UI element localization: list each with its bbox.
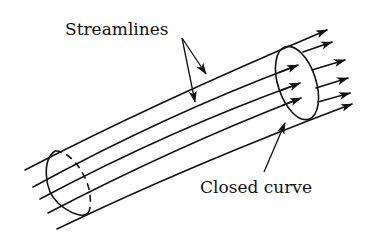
streamtube-diagram: Streamlines Closed curve [0,0,369,241]
streamline-2 [33,66,296,187]
closed-curve-pointer [264,123,285,172]
streamline-1 [25,30,327,170]
streamline-3-arrowhead-inner [282,83,300,90]
streamlines-group [25,30,352,229]
streamline-5 [57,104,352,229]
closed-curve-label: Closed curve [200,177,312,197]
streamline-4-exit-arrow [318,93,350,102]
streamline-2-arrowhead-inner [280,65,298,72]
closed-curve-right [267,41,327,125]
streamline-3-exit-arrow [316,78,348,88]
streamline-extra-arrow [303,42,332,52]
streamlines-label: Streamlines [65,19,169,39]
streamline-2-exit-arrow [312,60,345,70]
